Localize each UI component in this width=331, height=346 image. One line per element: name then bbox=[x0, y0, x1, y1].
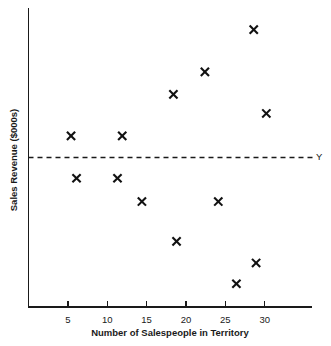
data-point-marker bbox=[138, 197, 146, 205]
data-point-marker bbox=[169, 90, 177, 98]
data-point-markers bbox=[67, 25, 270, 287]
data-point-marker bbox=[232, 280, 240, 288]
data-point-marker bbox=[252, 259, 260, 267]
x-axis-tick-label: 10 bbox=[102, 314, 113, 325]
x-axis-title: Number of Salespeople in Territory bbox=[91, 327, 249, 338]
x-axis-tick-label: 30 bbox=[259, 314, 270, 325]
data-point-marker bbox=[262, 109, 270, 117]
data-point-marker bbox=[172, 237, 180, 245]
x-axis-tick-label: 25 bbox=[220, 314, 231, 325]
x-axis-tick-label: 15 bbox=[141, 314, 152, 325]
data-point-marker bbox=[214, 197, 222, 205]
data-point-marker bbox=[201, 68, 209, 76]
data-point-marker bbox=[250, 25, 258, 33]
x-axis-tick-label: 5 bbox=[65, 314, 70, 325]
x-axis-tick-label: 20 bbox=[181, 314, 192, 325]
data-point-marker bbox=[118, 132, 126, 140]
x-axis-ticks bbox=[68, 301, 265, 307]
data-point-marker bbox=[72, 174, 80, 182]
x-axis-tick-labels: 51015202530 bbox=[65, 314, 270, 325]
reference-line-label: Y bbox=[316, 151, 323, 162]
data-point-marker bbox=[67, 132, 75, 140]
scatter-plot-figure: 51015202530 Y Number of Salespeople in T… bbox=[0, 0, 331, 346]
data-point-marker bbox=[113, 174, 121, 182]
plot-canvas: 51015202530 Y Number of Salespeople in T… bbox=[0, 0, 331, 346]
y-axis-title: Sales Revenue ($000s) bbox=[8, 109, 19, 211]
